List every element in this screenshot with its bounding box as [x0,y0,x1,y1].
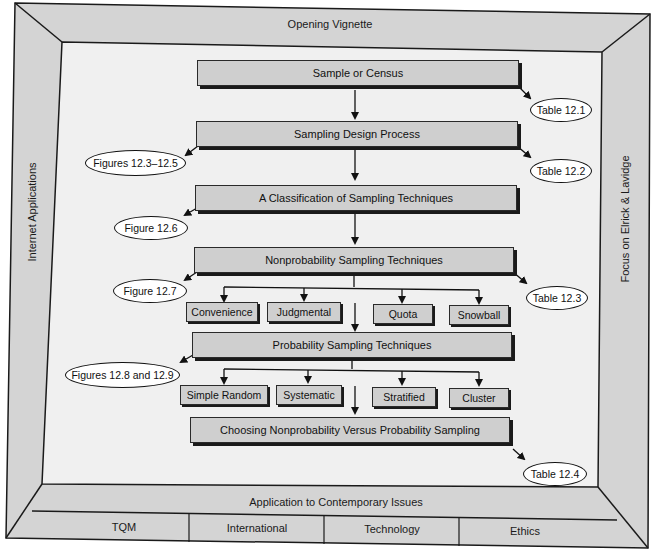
box-choosing-nonprobability-vs-probability: Choosing Nonprobability Versus Probabili… [190,417,510,443]
box-systematic: Systematic [276,385,342,405]
cell-technology: Technology [325,523,459,535]
oval-table-12-1: Table 12.1 [530,98,592,122]
box-classification-sampling-techniques: A Classification of Sampling Techniques [195,185,517,211]
box-cluster: Cluster [449,388,509,408]
box-judgmental: Judgmental [267,302,341,322]
oval-table-12-2: Table 12.2 [530,159,592,183]
box-sample-or-census: Sample or Census [197,60,519,86]
opening-vignette-label: Opening Vignette [230,18,430,30]
box-simple-random: Simple Random [180,385,268,405]
focus-elrick-lavidge-label: Focus on Elrick & Lavidge [619,139,633,299]
box-probability-techniques: Probability Sampling Techniques [192,332,512,358]
oval-table-12-4: Table 12.4 [523,462,587,486]
oval-table-12-3: Table 12.3 [526,286,588,310]
oval-figures-12-8-12-9: Figures 12.8 and 12.9 [65,362,180,388]
oval-figures-12-3-12-5: Figures 12.3–12.5 [85,150,186,176]
box-nonprobability-techniques: Nonprobability Sampling Techniques [194,247,514,273]
contemporary-issues-label: Application to Contemporary Issues [226,496,446,508]
box-convenience: Convenience [186,302,258,322]
cell-ethics: Ethics [460,525,590,537]
box-stratified: Stratified [372,387,436,407]
oval-figure-12-6: Figure 12.6 [114,216,188,240]
chapter-overview-diagram: Opening Vignette Internet Applications F… [0,0,653,552]
box-snowball: Snowball [449,305,509,325]
box-sampling-design-process: Sampling Design Process [196,121,518,147]
cell-international: International [190,522,324,534]
box-quota: Quota [373,304,433,324]
cell-tqm: TQM [60,521,188,533]
oval-figure-12-7: Figure 12.7 [113,279,187,303]
internet-applications-label: Internet Applications [26,137,40,287]
